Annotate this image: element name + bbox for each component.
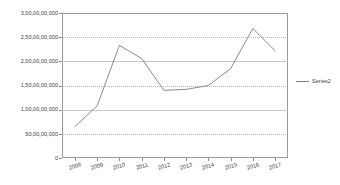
x-axis-tick-mark: [208, 158, 209, 161]
x-axis-tick-label: 2008: [64, 160, 85, 172]
x-axis-tick-label: 2012: [153, 160, 174, 172]
y-axis-tick-label: 2,00,00,00,000: [21, 58, 58, 64]
x-axis-tick-mark: [97, 158, 98, 161]
x-axis-tick-label: 2015: [220, 160, 241, 172]
y-axis-tick-mark: [59, 158, 62, 159]
legend: Series2: [296, 78, 331, 85]
y-axis-tick-label: 2,50,00,00,000: [21, 34, 58, 40]
line-chart: 050,00,00,0001,00,00,00,0001,50,00,00,00…: [0, 0, 340, 185]
x-axis-tick-mark: [253, 158, 254, 161]
x-axis-tick-label: 2010: [109, 160, 130, 172]
y-axis-tick-label: 3,00,00,00,000: [21, 10, 58, 16]
legend-line-swatch-series2: [296, 81, 309, 82]
x-axis-tick-mark: [164, 158, 165, 161]
legend-label-series2: Series2: [312, 78, 331, 85]
x-axis-tick-label: 2016: [242, 160, 263, 172]
x-axis-tick-label: 2014: [198, 160, 219, 172]
x-axis-tick-mark: [75, 158, 76, 161]
x-axis-tick-label: 2011: [131, 160, 152, 172]
y-axis-tick-label: 1,00,00,00,000: [21, 106, 58, 112]
x-axis-tick-mark: [119, 158, 120, 161]
x-axis-tick-label: 2017: [265, 160, 286, 172]
y-axis-tick-label: 50,00,00,000: [25, 131, 58, 137]
x-axis-tick-mark: [186, 158, 187, 161]
series-line-layer: [62, 13, 288, 158]
y-axis-tick-label: 1,50,00,00,000: [21, 82, 58, 88]
series-line-series2: [75, 28, 275, 126]
x-axis-tick-mark: [231, 158, 232, 161]
x-axis-tick-label: 2009: [87, 160, 108, 172]
y-axis-tick-label: 0: [55, 155, 58, 161]
x-axis-tick-label: 2013: [176, 160, 197, 172]
x-axis-tick-mark: [142, 158, 143, 161]
x-axis-tick-mark: [275, 158, 276, 161]
